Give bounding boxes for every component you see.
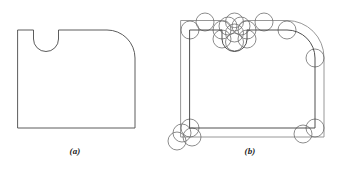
panel-a-caption: (a) (0, 146, 150, 156)
figure-canvas (0, 0, 350, 185)
profile-outline-original (18, 30, 135, 128)
construction-circle (255, 13, 273, 31)
construction-circle (173, 124, 191, 142)
construction-circle (196, 13, 214, 31)
figure-container: (a) (b) (0, 0, 350, 185)
profile-outline-original-b (190, 30, 315, 128)
profile-outline-offset (181, 21, 324, 138)
panel-a-group (18, 30, 135, 128)
panel-b-group (168, 13, 324, 150)
panel-b-caption: (b) (180, 146, 320, 156)
